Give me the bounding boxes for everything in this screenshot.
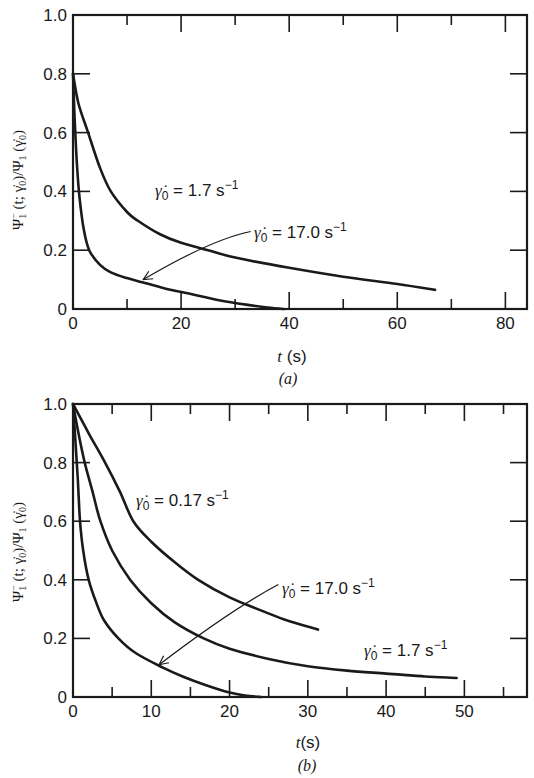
figure: 02040608000.20.40.60.81.0 γ̇0 = 1.7 s−1 …: [0, 0, 534, 778]
y-tick-label: 0.6: [43, 124, 67, 143]
y-tick-label: 0.4: [43, 182, 67, 201]
panel-label-b: (b): [298, 757, 317, 775]
y-tick-label: 1.0: [43, 6, 67, 25]
chart-panel-b: 0102030405000.20.40.60.81.0 γ̇0 = 0.17 s…: [8, 395, 527, 775]
x-tick-label: 0: [68, 314, 77, 333]
x-tick-label: 40: [377, 702, 396, 721]
y-tick-label: 0: [58, 688, 67, 707]
annotation-arrow-a: [143, 232, 251, 280]
x-tick-label: 20: [220, 702, 239, 721]
x-tick-label: 20: [172, 314, 191, 333]
annotation-label-b-3: γ̇0 = 1.7 s−1: [364, 638, 448, 663]
y-axis-label-b: Ψ1− (t; γ̇0)/Ψ1 (γ̇0): [8, 502, 28, 602]
y-axis-label-a: Ψ1− (t; γ̇0)/Ψ1 (γ̇0): [8, 130, 28, 230]
x-axis-label-a: t (s): [277, 347, 306, 366]
x-tick-label: 50: [455, 702, 474, 721]
x-tick-label: 60: [388, 314, 407, 333]
x-tick-label: 10: [142, 702, 161, 721]
data-curve: [73, 404, 457, 678]
y-tick-label: 0.8: [43, 65, 67, 84]
axis-ticks-a: 02040608000.20.40.60.81.0: [43, 6, 527, 333]
y-tick-label: 0: [58, 300, 67, 319]
y-tick-label: 0.2: [43, 241, 67, 260]
y-tick-label: 1.0: [43, 395, 67, 414]
x-tick-label: 0: [68, 702, 77, 721]
y-tick-label: 0.6: [43, 512, 67, 531]
data-curve: [73, 74, 435, 290]
x-tick-label: 80: [496, 314, 515, 333]
x-tick-label: 30: [298, 702, 317, 721]
annotation-label-b-2: γ̇0 = 17.0 s−1: [282, 576, 375, 601]
annotation-label-b-1: γ̇0 = 0.17 s−1: [136, 488, 229, 513]
arrowhead-icon: [143, 271, 153, 279]
y-tick-label: 0.2: [43, 629, 67, 648]
annotation-label-a-2: γ̇0 = 17.0 s−1: [254, 220, 347, 245]
x-tick-label: 40: [280, 314, 299, 333]
plot-frame-a: [73, 15, 527, 309]
panel-label-a: (a): [279, 370, 298, 388]
data-curve: [73, 404, 261, 697]
y-tick-label: 0.8: [43, 454, 67, 473]
annotation-arrow-line: [143, 232, 251, 280]
plot-frame-b: [73, 404, 527, 697]
curves-a: [73, 74, 435, 309]
annotation-label-a-1: γ̇0 = 1.7 s−1: [155, 178, 239, 203]
y-tick-label: 0.4: [43, 571, 67, 590]
chart-panel-a: 02040608000.20.40.60.81.0 γ̇0 = 1.7 s−1 …: [8, 6, 527, 388]
x-axis-label-b: t(s): [296, 733, 321, 752]
